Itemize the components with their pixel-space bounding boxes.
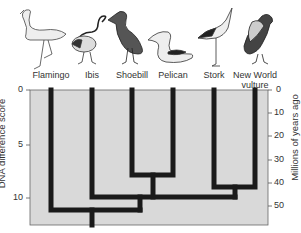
right-tick-10: 10	[274, 107, 284, 117]
left-axis-title: DNA difference score	[0, 99, 7, 189]
right-tick-40: 40	[274, 177, 284, 187]
left-tick-5: 5	[18, 139, 23, 149]
right-tick-50: 50	[274, 200, 284, 210]
left-tick-0: 0	[18, 84, 23, 94]
right-tick-20: 20	[274, 130, 284, 140]
right-tick-0: 0	[276, 84, 281, 94]
left-axis-ticks	[26, 90, 30, 198]
right-axis-title: Millions of years ago	[289, 94, 300, 181]
right-tick-30: 30	[274, 154, 284, 164]
left-tick-10: 10	[13, 192, 23, 202]
plot-background	[30, 90, 268, 225]
phylogenetic-tree	[0, 0, 301, 233]
right-axis-ticks	[268, 90, 272, 206]
